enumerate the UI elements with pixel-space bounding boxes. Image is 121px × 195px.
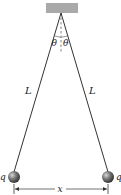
right-string (61, 13, 108, 172)
pendulum-diagram: θ θ L L q q x (0, 0, 121, 195)
length-right-label: L (88, 85, 96, 96)
separation-label: x (58, 184, 63, 194)
right-sphere (102, 171, 114, 183)
charge-right-label: q (116, 172, 121, 182)
ceiling-support (46, 3, 78, 13)
charge-left-label: q (0, 172, 6, 182)
left-string (14, 13, 61, 172)
left-sphere (8, 171, 20, 183)
theta-left-label: θ (52, 38, 58, 48)
length-left-label: L (24, 85, 32, 96)
theta-right-label: θ (63, 38, 69, 48)
